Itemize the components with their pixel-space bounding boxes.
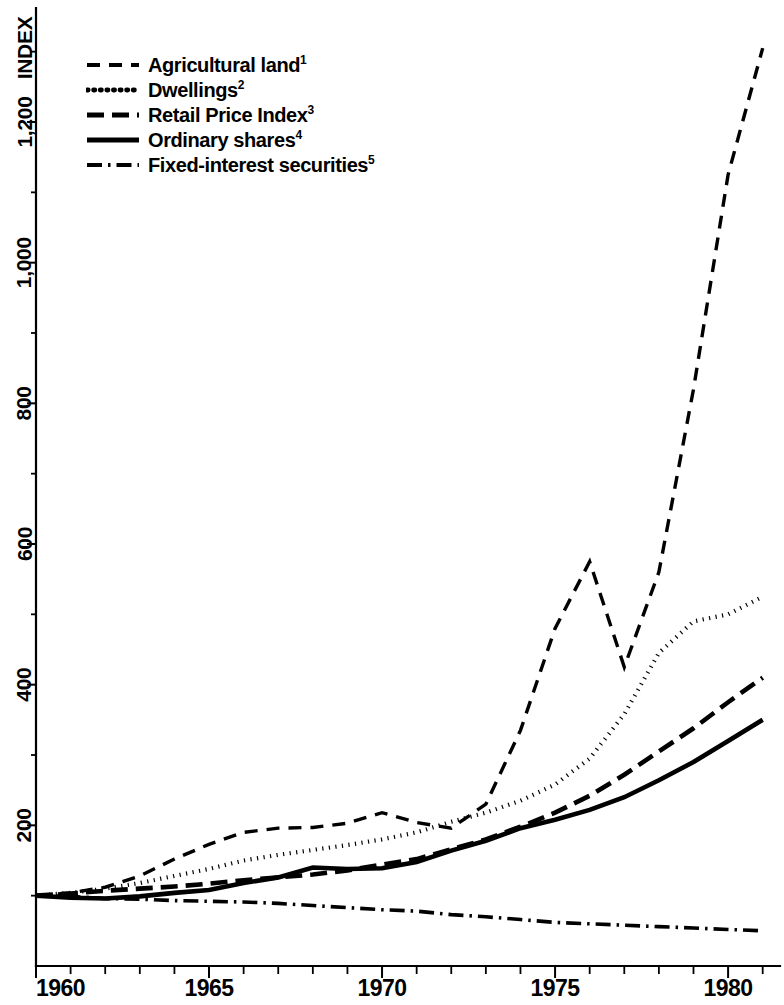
y-axis-tick-label: 600 xyxy=(13,527,36,561)
legend-footnote-marker: 4 xyxy=(295,128,301,142)
legend-footnote-marker: 5 xyxy=(368,153,374,167)
series-line-fixed-interest-securities xyxy=(36,896,763,931)
legend-label-retail-price-index: Retail Price Index3 xyxy=(148,105,314,125)
legend-item-ordinary-shares[interactable]: Ordinary shares4 xyxy=(86,127,416,152)
legend-item-dwellings[interactable]: Dwellings2 xyxy=(86,77,416,102)
legend-swatch-ordinary-shares-icon xyxy=(86,131,140,149)
y-axis-tick-label: 1,200 xyxy=(13,96,36,147)
legend-footnote-marker: 2 xyxy=(238,78,244,92)
legend-label-dwellings: Dwellings2 xyxy=(148,80,244,100)
series-line-dwellings xyxy=(36,597,763,896)
x-axis-tick-label: 1980 xyxy=(704,975,753,1001)
y-axis-title-text: INDEX xyxy=(13,16,36,79)
legend-footnote-marker: 1 xyxy=(300,53,306,67)
legend-swatch-agricultural-land-icon xyxy=(86,56,140,74)
legend-swatch-fixed-interest-securities-icon xyxy=(86,156,140,174)
y-axis-ticks xyxy=(27,52,36,896)
legend-item-retail-price-index[interactable]: Retail Price Index3 xyxy=(86,102,416,127)
x-axis-tick-label: 1965 xyxy=(184,975,234,1001)
y-axis-tick-label: 800 xyxy=(13,386,36,420)
x-axis-tick-labels: 19601965197019751980 xyxy=(36,975,753,1001)
y-axis-tick-label: 1,000 xyxy=(13,237,36,288)
chart-legend: Agricultural land1Dwellings2Retail Price… xyxy=(86,52,416,177)
legend-item-agricultural-land[interactable]: Agricultural land1 xyxy=(86,52,416,77)
legend-item-fixed-interest-securities[interactable]: Fixed-interest securities5 xyxy=(86,152,416,177)
x-axis-tick-label: 1970 xyxy=(357,975,406,1001)
y-axis-tick-label: 400 xyxy=(13,668,36,702)
index-line-chart: 2004006008001,0001,200 19601965197019751… xyxy=(0,0,784,1005)
legend-footnote-marker: 3 xyxy=(308,103,314,117)
x-axis-tick-label: 1960 xyxy=(36,975,85,1001)
chart-series-group xyxy=(36,48,763,931)
x-axis-tick-label: 1975 xyxy=(530,975,580,1001)
legend-label-agricultural-land: Agricultural land1 xyxy=(148,55,306,75)
y-axis-tick-labels: 2004006008001,0001,200 xyxy=(13,96,36,842)
legend-label-fixed-interest-securities: Fixed-interest securities5 xyxy=(148,155,374,175)
y-axis-tick-label: 200 xyxy=(13,808,36,842)
y-axis-title: INDEX xyxy=(13,16,36,79)
legend-swatch-dwellings-icon xyxy=(86,81,140,99)
legend-label-ordinary-shares: Ordinary shares4 xyxy=(148,130,302,150)
legend-swatch-retail-price-index-icon xyxy=(86,106,140,124)
